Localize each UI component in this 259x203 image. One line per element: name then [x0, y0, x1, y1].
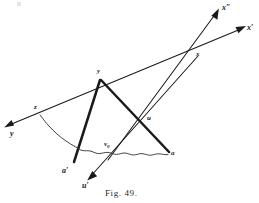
arrowhead-y	[4, 120, 14, 128]
label-u: u	[147, 115, 151, 122]
label-z: z	[34, 104, 37, 111]
label-y-axis-arrow: y	[10, 130, 14, 138]
figure-caption: Fig. 49.	[105, 188, 138, 198]
label-x: x	[196, 51, 200, 58]
figure-49: x″ x′ x y z y u v0 a a′ u′ Fig. 49.	[0, 0, 259, 203]
label-a: a	[171, 150, 175, 157]
label-u-prime: u′	[82, 182, 89, 190]
line-axis-u-prime	[91, 56, 199, 177]
label-a-prime: a′	[62, 167, 68, 175]
diagram-canvas	[0, 0, 259, 203]
label-y-vertex: y	[97, 68, 100, 75]
label-v-zero-subscript: 0	[107, 144, 110, 149]
arrowhead-x-prime	[236, 26, 247, 33]
label-x-double-prime: x″	[222, 4, 230, 12]
line-axis-y-xprime	[8, 29, 242, 126]
arrowhead-u-prime	[87, 171, 97, 181]
label-v-zero: v0	[104, 141, 110, 149]
label-x-prime: x′	[247, 24, 253, 32]
